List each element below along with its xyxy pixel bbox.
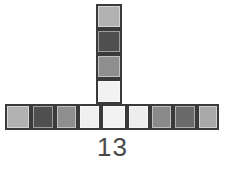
bar-cell-8[interactable] bbox=[173, 104, 197, 130]
figure-canvas: 13 bbox=[0, 0, 225, 175]
horizontal-bar bbox=[5, 104, 219, 130]
bar-cell-5[interactable] bbox=[101, 104, 127, 130]
vertical-column bbox=[96, 4, 122, 104]
column-cell-4[interactable] bbox=[96, 79, 122, 104]
bar-cell-4[interactable] bbox=[78, 104, 101, 130]
bar-cell-2[interactable] bbox=[31, 104, 55, 130]
bar-cell-9[interactable] bbox=[197, 104, 219, 130]
column-cell-1[interactable] bbox=[96, 4, 122, 29]
figure-caption-number: 13 bbox=[0, 132, 225, 162]
bar-cell-1[interactable] bbox=[5, 104, 31, 130]
column-cell-2[interactable] bbox=[96, 29, 122, 54]
column-cell-3[interactable] bbox=[96, 54, 122, 79]
bar-cell-3[interactable] bbox=[55, 104, 78, 130]
bar-cell-6[interactable] bbox=[127, 104, 150, 130]
bar-cell-7[interactable] bbox=[150, 104, 173, 130]
